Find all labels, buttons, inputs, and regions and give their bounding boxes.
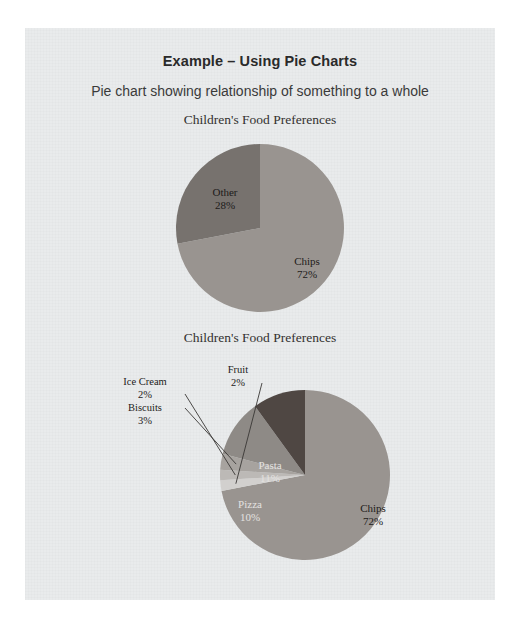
chart-two-leader-biscuits [185, 408, 236, 464]
chart-one-label-chips-percent: 72% [297, 268, 317, 280]
chart-two-label-ice-cream-name: Ice Cream [123, 376, 166, 387]
chart-two-label-chips-percent: 72% [363, 515, 383, 527]
chart-two: Fruit 2% Ice Cream 2% Biscuits 3% Pasta … [25, 353, 495, 603]
page-subtitle: Pie chart showing relationship of someth… [25, 83, 495, 99]
document-page: Example – Using Pie Charts Pie chart sho… [25, 28, 495, 600]
chart-two-leader-ice-cream [185, 394, 235, 475]
chart-two-svg: Fruit 2% Ice Cream 2% Biscuits 3% Pasta … [25, 353, 495, 603]
chart-two-label-pasta-percent: 11% [260, 472, 280, 484]
chart-one-label-other-percent: 28% [215, 199, 235, 211]
chart-two-label-chips-name: Chips [360, 502, 386, 514]
chart-one-title: Children's Food Preferences [25, 112, 495, 128]
chart-two-label-fruit-name: Fruit [228, 364, 249, 375]
chart-two-label-ice-cream-percent: 2% [138, 389, 152, 400]
chart-two-title: Children's Food Preferences [25, 330, 495, 346]
chart-two-label-biscuits-percent: 3% [138, 415, 152, 426]
page-title: Example – Using Pie Charts [25, 53, 495, 69]
chart-one-label-chips-name: Chips [294, 255, 320, 267]
chart-one-svg: Chips 72% Other 28% [25, 133, 495, 323]
chart-two-label-pizza-percent: 10% [240, 511, 260, 523]
chart-two-label-pasta-name: Pasta [258, 459, 281, 471]
chart-one: Chips 72% Other 28% [25, 133, 495, 323]
chart-two-label-pizza-name: Pizza [238, 498, 262, 510]
chart-two-label-fruit-percent: 2% [231, 377, 245, 388]
chart-two-label-biscuits-name: Biscuits [128, 402, 162, 413]
chart-one-label-other-name: Other [212, 186, 237, 198]
